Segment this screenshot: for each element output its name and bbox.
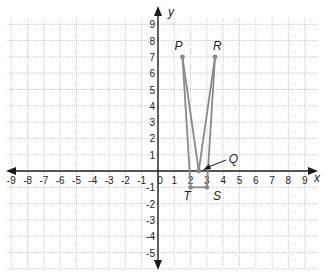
- y-axis-label: y: [167, 5, 175, 19]
- point-p: [180, 55, 185, 60]
- segment-PT: [182, 57, 190, 187]
- x-tick-label: 0: [157, 175, 163, 186]
- coordinate-plane: -9-8-7-6-5-4-3-2-10123456789987654321-1-…: [0, 0, 331, 279]
- y-tick-label: 8: [149, 36, 155, 47]
- point-s: [205, 185, 210, 190]
- x-tick-label: 1: [172, 175, 178, 186]
- x-tick-label: -5: [72, 175, 81, 186]
- x-tick-label: -7: [39, 175, 48, 186]
- y-tick-label: 3: [149, 117, 155, 128]
- point-q: [196, 169, 201, 174]
- point-label-t: T: [184, 189, 193, 203]
- x-tick-label: 7: [269, 175, 275, 186]
- x-axis-label: x: [313, 171, 321, 185]
- point-label-s: S: [213, 189, 221, 203]
- y-tick-label: 1: [149, 150, 155, 161]
- x-tick-label: -9: [7, 175, 16, 186]
- y-tick-label: 7: [149, 52, 155, 63]
- y-tick-label: 4: [149, 101, 155, 112]
- y-tick-label: -1: [146, 182, 155, 193]
- y-tick-label: 9: [149, 19, 155, 30]
- y-axis-up-arrow-icon: [154, 6, 162, 16]
- y-tick-label: 6: [149, 68, 155, 79]
- y-tick-label: 5: [149, 85, 155, 96]
- x-tick-label: -2: [121, 175, 130, 186]
- x-tick-label: 6: [253, 175, 259, 186]
- y-tick-label: -5: [146, 248, 155, 259]
- x-tick-label: -3: [105, 175, 114, 186]
- x-tick-label: -4: [88, 175, 97, 186]
- point-label-p: P: [174, 39, 182, 53]
- x-tick-label: -6: [56, 175, 65, 186]
- figure-polygon: [180, 55, 226, 190]
- x-tick-label: 8: [286, 175, 292, 186]
- y-tick-label: -4: [146, 231, 155, 242]
- x-tick-label: 9: [302, 175, 308, 186]
- point-label-q: Q: [229, 152, 238, 166]
- point-label-r: R: [213, 39, 222, 53]
- y-tick-label: 2: [149, 133, 155, 144]
- x-tick-label: 5: [237, 175, 243, 186]
- y-tick-label: -2: [146, 199, 155, 210]
- x-tick-label: 4: [220, 175, 226, 186]
- y-tick-label: -3: [146, 215, 155, 226]
- x-tick-label: -8: [23, 175, 32, 186]
- grid-lines: [6, 18, 318, 269]
- point-r: [213, 55, 218, 60]
